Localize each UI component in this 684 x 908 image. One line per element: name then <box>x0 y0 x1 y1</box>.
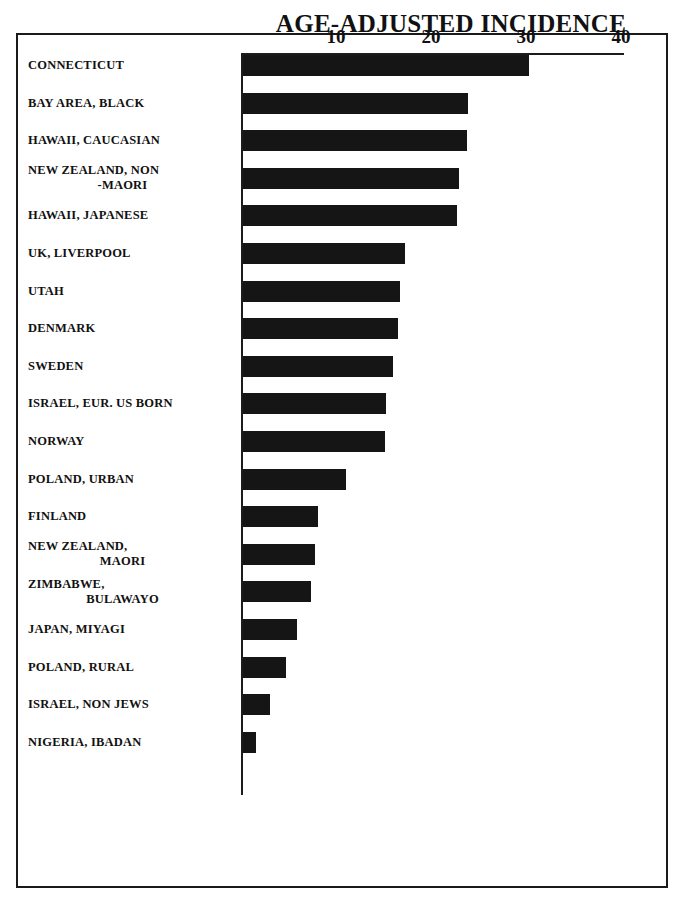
bar <box>243 431 385 452</box>
category-label-line: FINLAND <box>28 509 86 523</box>
category-label-line: NEW ZEALAND, NON <box>28 163 159 177</box>
category-label-line: -MAORI <box>28 178 239 193</box>
bar <box>243 393 386 414</box>
bar <box>243 732 256 753</box>
category-label-line: POLAND, URBAN <box>28 472 134 486</box>
bar <box>243 469 346 490</box>
category-label-line: ISRAEL, EUR. US BORN <box>28 396 173 410</box>
bar <box>243 581 311 602</box>
category-label: CONNECTICUT <box>14 58 239 73</box>
category-label: HAWAII, JAPANESE <box>14 208 239 223</box>
category-label: JAPAN, MIYAGI <box>14 622 239 637</box>
category-label-line: HAWAII, CAUCASIAN <box>28 133 160 147</box>
bar <box>243 55 529 76</box>
category-label: NIGERIA, IBADAN <box>14 735 239 750</box>
category-label-line: MAORI <box>28 554 239 569</box>
category-label-line: UK, LIVERPOOL <box>28 246 131 260</box>
category-label-line: DENMARK <box>28 321 95 335</box>
category-label-line: POLAND, RURAL <box>28 660 134 674</box>
bar <box>243 657 286 678</box>
category-label-line: NIGERIA, IBADAN <box>28 735 141 749</box>
category-label: UTAH <box>14 284 239 299</box>
category-label-line: CONNECTICUT <box>28 58 124 72</box>
bar <box>243 506 318 527</box>
category-label: ISRAEL, NON JEWS <box>14 697 239 712</box>
category-label-line: UTAH <box>28 284 64 298</box>
category-label-line: NORWAY <box>28 434 85 448</box>
category-label-line: HAWAII, JAPANESE <box>28 208 148 222</box>
category-label: UK, LIVERPOOL <box>14 246 239 261</box>
x-axis-tick-labels: 10203040 <box>241 26 631 52</box>
category-label: POLAND, RURAL <box>14 660 239 675</box>
category-label: ZIMBABWE,BULAWAYO <box>14 577 239 607</box>
category-label: NORWAY <box>14 434 239 449</box>
category-label: POLAND, URBAN <box>14 472 239 487</box>
bar <box>243 619 297 640</box>
bar <box>243 281 400 302</box>
category-label: BAY AREA, BLACK <box>14 96 239 111</box>
plot-area: 10203040 <box>241 26 631 816</box>
bars-layer <box>243 55 631 800</box>
category-label: DENMARK <box>14 321 239 336</box>
bar <box>243 318 398 339</box>
bar <box>243 544 315 565</box>
category-label: ISRAEL, EUR. US BORN <box>14 396 239 411</box>
bar <box>243 694 270 715</box>
category-label-line: ZIMBABWE, <box>28 577 104 591</box>
category-label-line: BULAWAYO <box>28 592 239 607</box>
category-label: SWEDEN <box>14 359 239 374</box>
category-label-line: JAPAN, MIYAGI <box>28 622 125 636</box>
bar <box>243 168 459 189</box>
bar <box>243 356 393 377</box>
category-label-line: SWEDEN <box>28 359 83 373</box>
category-label: NEW ZEALAND, NON-MAORI <box>14 163 239 193</box>
x-tick-label-30: 30 <box>517 26 536 48</box>
bar <box>243 130 467 151</box>
category-label-line: NEW ZEALAND, <box>28 539 127 553</box>
x-tick-label-10: 10 <box>327 26 346 48</box>
category-label-line: BAY AREA, BLACK <box>28 96 144 110</box>
bar <box>243 93 468 114</box>
category-label: HAWAII, CAUCASIAN <box>14 133 239 148</box>
x-tick-label-40: 40 <box>612 26 631 48</box>
category-label: NEW ZEALAND,MAORI <box>14 539 239 569</box>
x-tick-label-20: 20 <box>422 26 441 48</box>
category-label-line: ISRAEL, NON JEWS <box>28 697 149 711</box>
category-label: FINLAND <box>14 509 239 524</box>
bar <box>243 205 457 226</box>
category-axis-labels: CONNECTICUTBAY AREA, BLACKHAWAII, CAUCAS… <box>14 55 239 845</box>
bar <box>243 243 405 264</box>
